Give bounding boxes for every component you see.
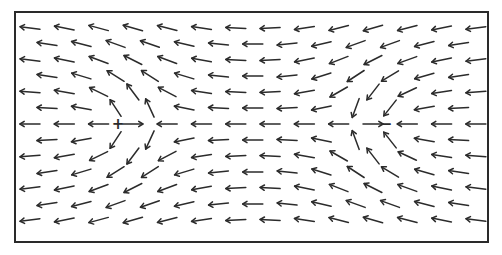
field-arrow [192, 88, 212, 93]
field-arrow [158, 87, 176, 97]
field-arrow [55, 56, 75, 62]
field-arrow [142, 167, 159, 178]
field-arrow [415, 42, 434, 49]
field-arrow [398, 88, 416, 97]
field-arrow [466, 185, 486, 190]
field-arrow [312, 42, 331, 48]
field-arrow [466, 153, 486, 158]
sink-marker: − [380, 115, 393, 133]
field-arrow [364, 56, 382, 66]
field-arrow [127, 84, 139, 100]
field-arrow [277, 137, 297, 142]
field-arrow [54, 121, 74, 126]
field-arrow [329, 216, 348, 222]
field-arrow [414, 136, 434, 141]
field-arrow [330, 87, 347, 97]
field-arrow [20, 186, 40, 191]
vector-field-diagram: +− [0, 0, 502, 255]
field-arrow [312, 73, 331, 80]
field-arrow [415, 200, 434, 207]
field-arrow [158, 151, 176, 161]
field-arrow [312, 168, 331, 175]
field-arrow [432, 184, 452, 190]
field-arrow [363, 25, 382, 32]
field-arrow [123, 24, 142, 31]
field-arrow [329, 121, 349, 126]
field-arrow [158, 185, 177, 193]
field-arrow [243, 105, 263, 110]
field-arrow [20, 121, 40, 126]
field-arrow [312, 200, 331, 206]
field-arrow [243, 41, 263, 46]
field-arrow [37, 138, 57, 143]
field-arrow [260, 185, 280, 190]
field-arrow [123, 217, 142, 224]
field-arrow [312, 136, 332, 142]
field-arrow [209, 138, 229, 143]
field-arrow [55, 186, 75, 192]
field-arrow [243, 73, 263, 78]
field-arrow [158, 218, 177, 224]
field-arrow [466, 217, 486, 222]
field-arrow [449, 42, 469, 47]
field-arrow [432, 58, 452, 64]
field-arrow [277, 74, 297, 79]
field-arrow [432, 121, 452, 126]
field-arrow [110, 132, 121, 149]
field-arrow [54, 154, 74, 159]
field-arrow [260, 153, 280, 158]
field-arrow [398, 216, 417, 223]
field-arrow [106, 201, 125, 209]
field-arrow [145, 99, 154, 117]
field-arrow [123, 121, 143, 126]
field-arrow [295, 58, 315, 64]
field-arrow [415, 168, 434, 175]
field-arrow [398, 57, 417, 65]
field-arrow [106, 40, 125, 48]
field-arrow [398, 26, 417, 33]
field-arrow [226, 25, 246, 30]
field-arrow [89, 24, 108, 31]
field-arrow [192, 154, 212, 159]
field-arrow [363, 216, 382, 223]
field-arrow [37, 40, 57, 45]
field-arrow [110, 100, 121, 117]
field-arrow [175, 40, 194, 46]
field-arrow [294, 121, 314, 126]
field-arrow [192, 56, 212, 62]
field-arrow [243, 169, 263, 174]
field-arrow [260, 58, 280, 63]
field-arrow [295, 90, 315, 95]
field-arrow [295, 184, 315, 190]
field-arrow [37, 170, 57, 175]
field-arrow [141, 201, 160, 209]
field-arrow [37, 105, 57, 110]
field-arrow [54, 88, 74, 93]
field-arrow [89, 121, 109, 126]
field-arrow [346, 200, 365, 208]
field-arrow [72, 202, 91, 209]
field-arrow [90, 152, 108, 161]
field-arrow [127, 148, 139, 164]
field-arrow [384, 132, 396, 148]
field-arrow [37, 73, 57, 78]
field-arrow [397, 121, 417, 126]
field-arrow [89, 217, 108, 224]
field-arrow [295, 152, 315, 157]
field-arrow [141, 40, 160, 48]
field-arrow [347, 167, 364, 178]
field-arrow [277, 169, 297, 174]
field-arrow [20, 25, 40, 30]
field-arrow [226, 154, 246, 159]
field-arrow [329, 183, 348, 191]
field-arrow [312, 106, 332, 112]
field-arrow [449, 169, 469, 174]
field-arrow [72, 72, 91, 79]
field-arrow [449, 106, 469, 111]
field-arrow [260, 90, 280, 95]
field-arrow [72, 138, 92, 144]
field-arrow [20, 57, 40, 62]
field-arrow [158, 24, 177, 30]
field-arrow [277, 106, 297, 111]
field-arrow [351, 131, 359, 150]
